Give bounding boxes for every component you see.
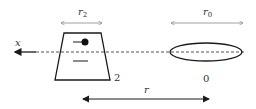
body-0-label: 0	[203, 73, 209, 84]
diagram-canvas: x 2 r2 0 r0 r	[0, 0, 256, 109]
separation-label: r	[144, 84, 150, 95]
r2-label: r2	[78, 6, 87, 19]
body-2-dot	[82, 39, 89, 46]
diagram-svg: x 2 r2 0 r0 r	[0, 0, 256, 109]
x-axis-label: x	[15, 37, 21, 48]
body-2-label: 2	[114, 72, 120, 83]
r0-label: r0	[203, 6, 212, 19]
